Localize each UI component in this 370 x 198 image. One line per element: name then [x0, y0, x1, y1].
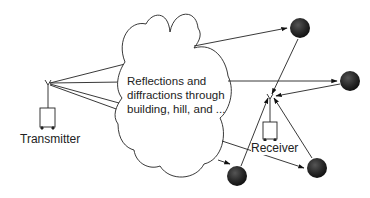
cloud-caption: Reflections and diffractions through bui…: [127, 74, 225, 116]
scatterer-2: [340, 71, 360, 91]
scatterer-3: [227, 166, 247, 186]
receiver: [263, 94, 277, 141]
cloud-caption-line-1: Reflections and: [127, 74, 225, 88]
scatterer-4: [307, 158, 327, 178]
receiver-label: Receiver: [251, 141, 298, 155]
transmitter-label: Transmitter: [20, 132, 80, 146]
transmitter-rays: [50, 64, 125, 110]
cloud-caption-line-3: building, hill, and ...: [127, 102, 225, 116]
transmitter: [40, 80, 55, 129]
scatterer-1: [290, 18, 310, 38]
cloud-caption-line-2: diffractions through: [127, 88, 225, 102]
transmitter-box: [40, 108, 55, 127]
receiver-box: [263, 122, 277, 139]
